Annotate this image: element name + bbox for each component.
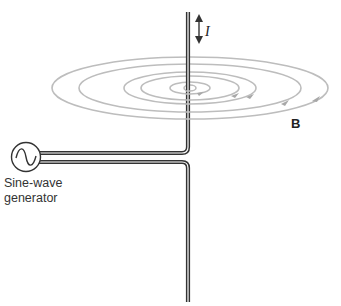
current-label: I (205, 24, 210, 40)
generator-label-line2: generator (4, 191, 62, 206)
wire-upper (38, 12, 188, 153)
field-label: B (291, 116, 300, 131)
arrow-icon (197, 92, 204, 96)
diagram-canvas (0, 0, 341, 306)
generator-label-line1: Sine-wave (4, 176, 62, 191)
generator-label: Sine-wave generator (4, 176, 62, 206)
current-arrow-icon (195, 14, 203, 44)
sine-wave-generator-icon (12, 143, 41, 172)
